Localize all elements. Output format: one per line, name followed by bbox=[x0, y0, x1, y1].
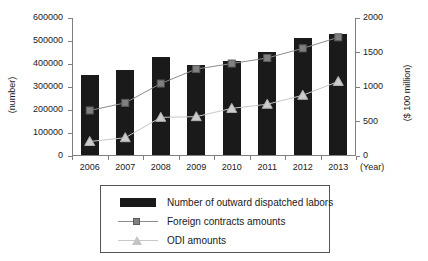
x-axis-tick-label: 2007 bbox=[105, 162, 145, 172]
x-axis-tick bbox=[143, 156, 144, 160]
y-axis-left-tick-label: 200000 bbox=[11, 105, 63, 114]
series-marker-square bbox=[86, 107, 93, 114]
line-series-layer bbox=[72, 18, 356, 156]
x-axis-tick bbox=[108, 156, 109, 160]
legend-key-square-marker bbox=[115, 216, 161, 228]
plot-area: 0100000200000300000400000500000600000 05… bbox=[72, 18, 356, 156]
y-axis-right-tick-label: 1500 bbox=[363, 48, 403, 57]
series-line bbox=[90, 81, 339, 141]
series-marker-square bbox=[122, 99, 129, 106]
x-axis-tick bbox=[179, 156, 180, 160]
legend-label-foreign-contracts-amounts: Foreign contracts amounts bbox=[167, 216, 285, 227]
x-axis-tick bbox=[356, 156, 357, 160]
chart-figure: (number) ($ 100 million) 010000020000030… bbox=[0, 0, 428, 261]
y-axis-left-tick-label: 300000 bbox=[11, 82, 63, 91]
y-axis-left-tick-label: 100000 bbox=[11, 128, 63, 137]
x-axis-tick-label: 2006 bbox=[70, 162, 110, 172]
series-marker-triangle bbox=[333, 76, 343, 85]
y-axis-right-tick bbox=[356, 121, 360, 122]
legend-label-outward-dispatched-labors: Number of outward dispatched labors bbox=[167, 197, 333, 208]
chart-legend: Number of outward dispatched labors Fore… bbox=[100, 185, 330, 253]
series-marker-square bbox=[228, 60, 235, 67]
series-marker-square bbox=[335, 34, 342, 41]
y-axis-right-title: ($ 100 million) bbox=[402, 51, 412, 135]
x-axis-tick-label: 2012 bbox=[283, 162, 323, 172]
legend-item-outward-dispatched-labors: Number of outward dispatched labors bbox=[101, 193, 329, 212]
y-axis-left-title: (number) bbox=[7, 59, 17, 131]
series-marker-triangle bbox=[298, 90, 308, 99]
x-axis-unit-label: (Year) bbox=[360, 162, 384, 172]
x-axis-tick-label: 2010 bbox=[212, 162, 252, 172]
y-axis-right-tick bbox=[356, 18, 360, 19]
x-axis-tick-label: 2008 bbox=[141, 162, 181, 172]
series-marker-square bbox=[193, 66, 200, 73]
y-axis-left-tick-label: 600000 bbox=[11, 13, 63, 22]
legend-label-odi-amounts: ODI amounts bbox=[167, 235, 226, 246]
series-marker-square bbox=[299, 45, 306, 52]
x-axis-tick-label: 2009 bbox=[176, 162, 216, 172]
y-axis-left-tick-label: 0 bbox=[11, 151, 63, 160]
y-axis-left-tick-label: 400000 bbox=[11, 59, 63, 68]
x-axis-tick bbox=[250, 156, 251, 160]
x-axis-tick bbox=[72, 156, 73, 160]
series-marker-square bbox=[264, 55, 271, 62]
x-axis-tick-label: 2011 bbox=[247, 162, 287, 172]
y-axis-right-tick-label: 0 bbox=[363, 151, 403, 160]
x-axis-tick bbox=[321, 156, 322, 160]
y-axis-left-tick-label: 500000 bbox=[11, 36, 63, 45]
y-axis-right-tick bbox=[356, 52, 360, 53]
y-axis-right-tick-label: 500 bbox=[363, 117, 403, 126]
series-marker-triangle bbox=[120, 133, 130, 142]
y-axis-right-tick-label: 1000 bbox=[363, 82, 403, 91]
y-axis-right-tick bbox=[356, 87, 360, 88]
legend-key-bar-swatch bbox=[115, 197, 161, 209]
y-axis-right-tick-label: 2000 bbox=[363, 13, 403, 22]
legend-item-foreign-contracts-amounts: Foreign contracts amounts bbox=[101, 212, 329, 231]
legend-key-triangle-marker bbox=[115, 235, 161, 247]
legend-item-odi-amounts: ODI amounts bbox=[101, 231, 329, 250]
x-axis-tick bbox=[285, 156, 286, 160]
x-axis-tick bbox=[214, 156, 215, 160]
x-axis-tick-label: 2013 bbox=[318, 162, 358, 172]
series-marker-square bbox=[157, 80, 164, 87]
